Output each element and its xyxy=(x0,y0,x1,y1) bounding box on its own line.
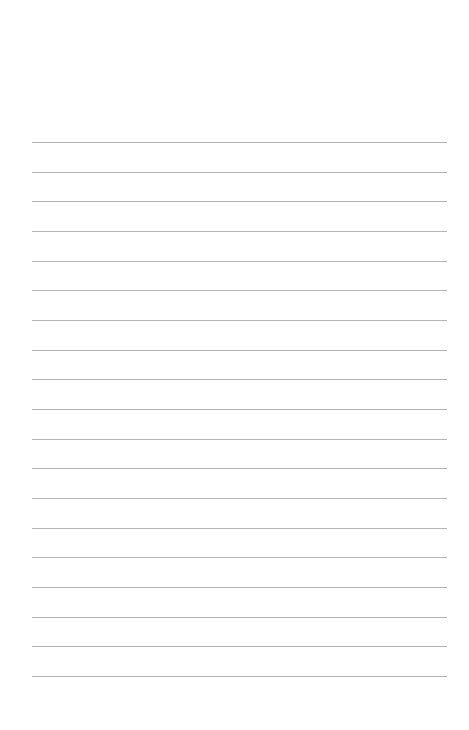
ruled-line xyxy=(32,231,447,232)
ruled-line xyxy=(32,201,447,202)
ruled-line xyxy=(32,439,447,440)
ruled-line xyxy=(32,498,447,499)
ruled-line xyxy=(32,172,447,173)
ruled-line xyxy=(32,379,447,380)
ruled-line xyxy=(32,320,447,321)
ruled-line xyxy=(32,646,447,647)
ruled-line xyxy=(32,528,447,529)
ruled-line xyxy=(32,409,447,410)
ruled-line xyxy=(32,557,447,558)
ruled-line xyxy=(32,290,447,291)
ruled-line xyxy=(32,676,447,677)
ruled-line xyxy=(32,468,447,469)
lined-paper-page xyxy=(0,0,469,730)
ruled-line xyxy=(32,261,447,262)
ruled-line xyxy=(32,617,447,618)
ruled-line xyxy=(32,587,447,588)
ruled-line xyxy=(32,142,447,143)
ruled-line xyxy=(32,350,447,351)
